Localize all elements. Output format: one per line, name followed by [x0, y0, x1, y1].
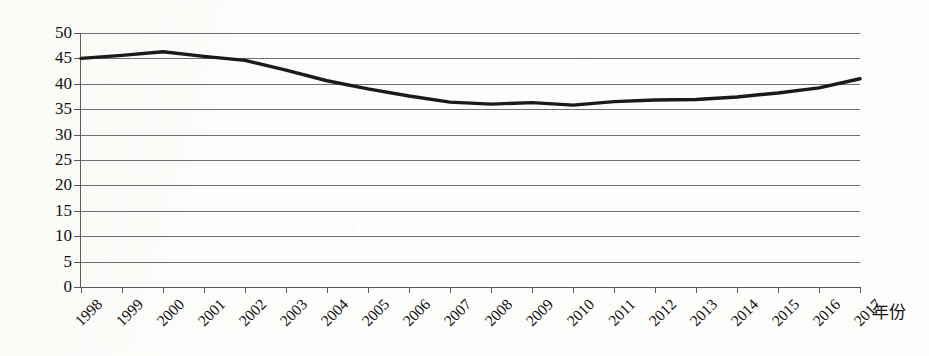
x-axis-tick-2009 [532, 287, 533, 293]
x-axis-tick-2007 [450, 287, 451, 293]
x-axis-label-2010: 2010 [564, 296, 597, 329]
y-axis-label-50: 50 [8, 24, 72, 41]
y-axis-label-40: 40 [8, 75, 72, 92]
x-axis-tick-2014 [737, 287, 738, 293]
x-axis-tick-2003 [286, 287, 287, 293]
x-axis-label-2014: 2014 [728, 296, 761, 329]
x-axis-label-2015: 2015 [769, 296, 802, 329]
series-polyline [81, 52, 860, 105]
x-axis-tick-2013 [696, 287, 697, 293]
x-axis-label-2005: 2005 [359, 296, 392, 329]
y-axis-label-35: 35 [8, 100, 72, 117]
y-axis-label-45: 45 [8, 49, 72, 66]
x-axis-label-2013: 2013 [687, 296, 720, 329]
x-axis-tick-2006 [409, 287, 410, 293]
y-axis-label-10: 10 [8, 227, 72, 244]
gridline-0 [81, 287, 860, 288]
x-axis-label-2011: 2011 [605, 296, 638, 329]
x-axis-label-2012: 2012 [646, 296, 679, 329]
y-axis-tick-labels: 05101520253035404550 [0, 33, 72, 287]
x-axis-tick-2016 [819, 287, 820, 293]
y-axis-label-15: 15 [8, 202, 72, 219]
x-axis-title: 年份 [872, 303, 906, 321]
y-axis-label-25: 25 [8, 151, 72, 168]
line-series [81, 33, 860, 287]
y-axis-label-20: 20 [8, 176, 72, 193]
x-axis-tick-2000 [163, 287, 164, 293]
x-axis-label-2002: 2002 [236, 296, 269, 329]
x-axis-tick-2010 [573, 287, 574, 293]
x-axis-tick-2002 [245, 287, 246, 293]
x-axis-label-2006: 2006 [400, 296, 433, 329]
chart-screenshot: 05101520253035404550 1998199920002001200… [0, 0, 929, 356]
x-axis-label-1999: 1999 [113, 296, 146, 329]
x-axis-label-2003: 2003 [277, 296, 310, 329]
y-axis-label-5: 5 [8, 253, 72, 270]
x-axis-tick-2017 [860, 287, 861, 293]
x-axis-label-2004: 2004 [318, 296, 351, 329]
x-axis-label-2007: 2007 [441, 296, 474, 329]
x-axis-tick-2004 [327, 287, 328, 293]
x-axis-label-2016: 2016 [810, 296, 843, 329]
plot-area [81, 33, 860, 287]
x-axis-tick-2001 [204, 287, 205, 293]
x-axis-label-2008: 2008 [482, 296, 515, 329]
x-axis-tick-2005 [368, 287, 369, 293]
x-axis-tick-2011 [614, 287, 615, 293]
x-axis-label-1998: 1998 [72, 296, 105, 329]
x-axis-tick-2012 [655, 287, 656, 293]
x-axis-label-2000: 2000 [154, 296, 187, 329]
x-axis-label-2001: 2001 [195, 296, 228, 329]
x-axis-label-2009: 2009 [523, 296, 556, 329]
x-axis-tick-2008 [491, 287, 492, 293]
y-axis-label-0: 0 [8, 278, 72, 295]
x-axis-tick-1999 [122, 287, 123, 293]
x-axis-tick-1998 [81, 287, 82, 293]
x-axis-tick-2015 [778, 287, 779, 293]
y-axis-label-30: 30 [8, 126, 72, 143]
